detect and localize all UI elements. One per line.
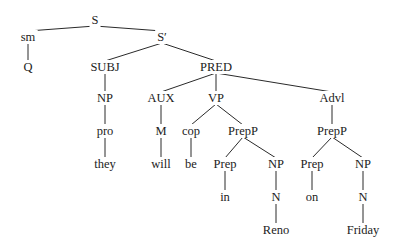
edge-PrepP2-Prep2 bbox=[312, 137, 332, 158]
syntax-tree: SsmQS′SUBJPREDNPAUXVPAdvlproMcopPrepPPre… bbox=[0, 0, 401, 249]
tree-node-n2: N bbox=[356, 190, 369, 204]
edge-S-Sbar bbox=[95, 26, 162, 31]
edge-PrepP1-NP1 bbox=[243, 137, 276, 158]
tree-node-vp: VP bbox=[206, 91, 226, 105]
edge-VP-cop bbox=[191, 104, 216, 125]
tree-node-will: will bbox=[149, 157, 172, 171]
tree-node-reno: Reno bbox=[261, 223, 291, 237]
tree-node-prepp1: PrepP bbox=[226, 124, 260, 138]
tree-node-be: be bbox=[183, 157, 199, 171]
tree-node-in: in bbox=[218, 190, 232, 204]
tree-node-on: on bbox=[304, 190, 321, 204]
edge-Sbar-PRED bbox=[162, 43, 216, 61]
edge-VP-PrepP1 bbox=[216, 104, 243, 125]
edge-S-sm bbox=[28, 26, 95, 31]
tree-node-pro: pro bbox=[95, 124, 116, 138]
tree-node-s: S bbox=[90, 13, 101, 27]
tree-node-they: they bbox=[92, 157, 118, 171]
tree-node-q: Q bbox=[21, 60, 34, 74]
tree-node-sm: sm bbox=[19, 30, 38, 44]
tree-node-prepp2: PrepP bbox=[315, 124, 349, 138]
tree-node-np1: NP bbox=[266, 157, 286, 171]
edge-PrepP2-NP2 bbox=[332, 137, 363, 158]
tree-node-np0: NP bbox=[95, 91, 115, 105]
tree-node-advl: Advl bbox=[318, 91, 347, 105]
tree-node-n1: N bbox=[269, 190, 282, 204]
tree-node-prep1: Prep bbox=[212, 157, 239, 171]
edge-PrepP1-Prep1 bbox=[225, 137, 243, 158]
edge-PRED-Advl bbox=[216, 73, 332, 92]
edge-Sbar-SUBJ bbox=[105, 43, 162, 61]
tree-node-subj: SUBJ bbox=[88, 60, 121, 74]
edge-PRED-AUX bbox=[161, 73, 216, 92]
tree-node-m: M bbox=[153, 124, 168, 138]
tree-node-sbar: S′ bbox=[155, 30, 169, 44]
tree-node-pred: PRED bbox=[198, 60, 234, 74]
tree-node-cop: cop bbox=[180, 124, 202, 138]
tree-node-np2: NP bbox=[353, 157, 373, 171]
tree-node-friday: Friday bbox=[345, 223, 382, 237]
tree-node-aux: AUX bbox=[145, 91, 176, 105]
tree-node-prep2: Prep bbox=[299, 157, 326, 171]
